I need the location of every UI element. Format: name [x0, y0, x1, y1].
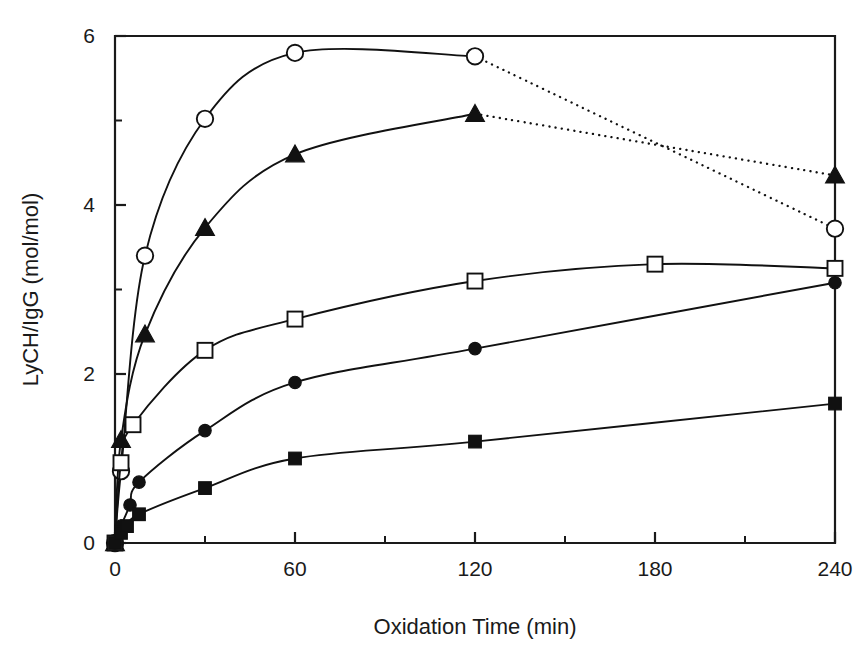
- series-line-dotted: [475, 56, 835, 228]
- data-point-filled-square: [199, 482, 212, 495]
- data-point-filled-circle: [133, 476, 145, 488]
- data-point-open-circle: [467, 48, 483, 64]
- data-point-open-square: [648, 257, 663, 272]
- data-point-open-square: [288, 312, 303, 327]
- x-tick-label: 0: [109, 557, 121, 580]
- series-line-solid: [115, 404, 835, 543]
- data-point-open-circle: [287, 45, 303, 61]
- series-line-solid: [115, 283, 835, 543]
- chart-canvas: 0246060120180240Oxidation Time (min)LyCH…: [0, 0, 868, 656]
- data-point-filled-circle: [829, 277, 841, 289]
- data-point-filled-square: [121, 520, 134, 533]
- y-tick-label: 2: [83, 362, 95, 385]
- data-point-open-circle: [137, 248, 153, 264]
- data-point-open-square: [114, 455, 129, 470]
- data-point-open-square: [198, 343, 213, 358]
- chart-figure: 0246060120180240Oxidation Time (min)LyCH…: [0, 0, 868, 656]
- data-point-filled-square: [289, 452, 302, 465]
- data-point-open-circle: [197, 111, 213, 127]
- data-point-filled-triangle: [466, 105, 485, 122]
- x-tick-label: 60: [283, 557, 306, 580]
- series-line-dotted: [475, 114, 835, 176]
- x-tick-label: 240: [817, 557, 852, 580]
- y-tick-label: 0: [83, 531, 95, 554]
- series-filled-circle: [109, 277, 841, 550]
- x-tick-label: 180: [637, 557, 672, 580]
- data-series-group: [106, 45, 845, 552]
- data-point-filled-circle: [289, 376, 301, 388]
- y-tick-label: 4: [83, 193, 95, 216]
- series-line-solid: [115, 264, 835, 543]
- y-tick-label: 6: [83, 24, 95, 47]
- data-point-filled-square: [469, 435, 482, 448]
- data-point-open-square: [828, 261, 843, 276]
- x-tick-label: 120: [457, 557, 492, 580]
- data-point-filled-square: [133, 508, 146, 521]
- data-point-open-square: [126, 417, 141, 432]
- series-filled-square: [109, 397, 842, 549]
- data-point-open-circle: [827, 220, 843, 236]
- data-point-filled-circle: [199, 424, 211, 436]
- series-line-solid: [115, 114, 475, 543]
- x-axis-title: Oxidation Time (min): [374, 614, 577, 639]
- y-axis-title: LyCH/IgG (mol/mol): [18, 193, 43, 387]
- data-point-open-square: [468, 274, 483, 289]
- data-point-filled-square: [829, 397, 842, 410]
- data-point-filled-circle: [469, 342, 481, 354]
- data-point-filled-triangle: [136, 325, 155, 342]
- data-point-filled-triangle: [286, 145, 305, 162]
